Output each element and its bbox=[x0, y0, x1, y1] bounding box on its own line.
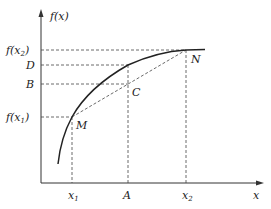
guide-lines bbox=[41, 50, 186, 183]
point-label-N: N bbox=[190, 53, 201, 66]
point-label-C: C bbox=[132, 86, 141, 99]
x-label-A: A bbox=[122, 189, 131, 202]
concave-function-diagram: f(x) f(x2) D B f(x1) x1 A x2 x M N C bbox=[0, 0, 271, 209]
x-axis-arrow-icon bbox=[256, 181, 264, 186]
y-label-f-x2: f(x2) bbox=[5, 44, 29, 58]
y-label-f-x1: f(x1) bbox=[5, 111, 29, 125]
y-label-D: D bbox=[25, 59, 35, 72]
x-axis-label: x bbox=[253, 189, 260, 202]
function-curve bbox=[58, 50, 205, 165]
point-label-M: M bbox=[75, 119, 88, 132]
chord-MN bbox=[72, 50, 186, 117]
x-label-x2: x2 bbox=[182, 189, 193, 203]
y-axis-label: f(x) bbox=[49, 10, 69, 23]
y-axis-arrow-icon bbox=[39, 9, 44, 17]
x-label-x1: x1 bbox=[68, 189, 79, 203]
y-label-B: B bbox=[25, 78, 34, 91]
